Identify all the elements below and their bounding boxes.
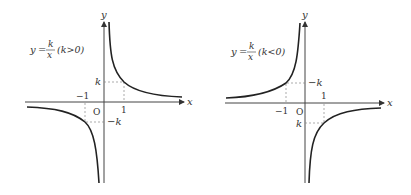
right-curve-q4 (309, 108, 381, 183)
inverse-proportion-diagrams: y = k x (k>0) y x O 1 −1 k −k y = k x (k… (0, 0, 411, 195)
left-graph: y = k x (k>0) y x O 1 −1 k −k (25, 9, 193, 183)
right-formula-eq: = (239, 46, 247, 57)
right-formula-y: y (230, 46, 237, 57)
left-tick-1: 1 (121, 105, 127, 115)
right-condition: (k<0) (258, 46, 285, 57)
right-origin: O (296, 107, 303, 117)
left-y-label: y (100, 9, 107, 20)
right-tick-neg1: −1 (275, 106, 288, 116)
right-tick-neg-k: −k (308, 77, 322, 88)
right-dash-k (305, 103, 324, 123)
left-curve-q3 (27, 107, 99, 183)
right-curve-q2 (226, 23, 300, 98)
left-formula-num: k (48, 39, 53, 49)
left-tick-neg1: −1 (76, 91, 89, 101)
right-formula-num: k (249, 41, 254, 51)
right-tick-k: k (296, 118, 302, 129)
left-condition: (k>0) (57, 44, 84, 55)
left-formula-y: y (29, 44, 36, 55)
left-dash-k (104, 82, 124, 102)
right-graph: y = k x (k<0) y x O 1 −1 −k k (225, 9, 393, 183)
left-formula-eq: = (38, 44, 46, 55)
left-x-label: x (187, 96, 193, 107)
right-dash-neg-k (286, 83, 305, 103)
left-curve-q1 (109, 22, 182, 97)
left-tick-neg-k: −k (107, 116, 121, 127)
right-y-label: y (301, 9, 308, 20)
left-tick-k: k (95, 76, 101, 87)
left-formula-den: x (47, 50, 52, 60)
right-tick-1: 1 (321, 91, 327, 101)
left-origin: O (93, 107, 100, 117)
right-x-label: x (387, 97, 393, 108)
right-formula-den: x (248, 52, 253, 62)
